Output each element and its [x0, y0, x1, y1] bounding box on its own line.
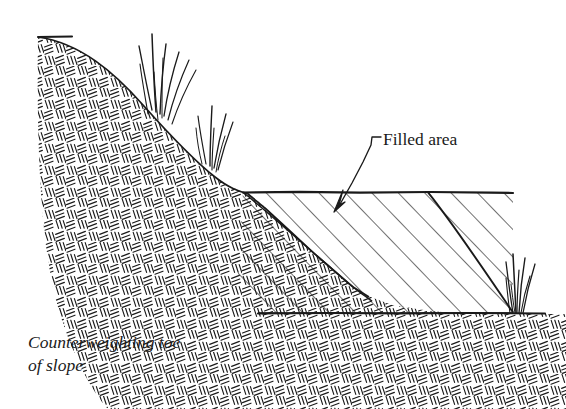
grass-tuft-upper-slope	[139, 34, 196, 124]
grass-tuft-mid-slope	[196, 106, 233, 172]
diagram-canvas: Filled area Counterweighting toe of slop…	[0, 0, 566, 409]
slope-counterweight-diagram: Filled area Counterweighting toe of slop…	[0, 0, 566, 409]
filled-area-label: Filled area	[383, 129, 458, 149]
caption-line-1: Counterweighting toe	[28, 332, 180, 352]
ground-crest-line	[38, 37, 72, 38]
fill-crest-line	[243, 192, 513, 193]
caption-line-2: of slope	[28, 355, 83, 375]
